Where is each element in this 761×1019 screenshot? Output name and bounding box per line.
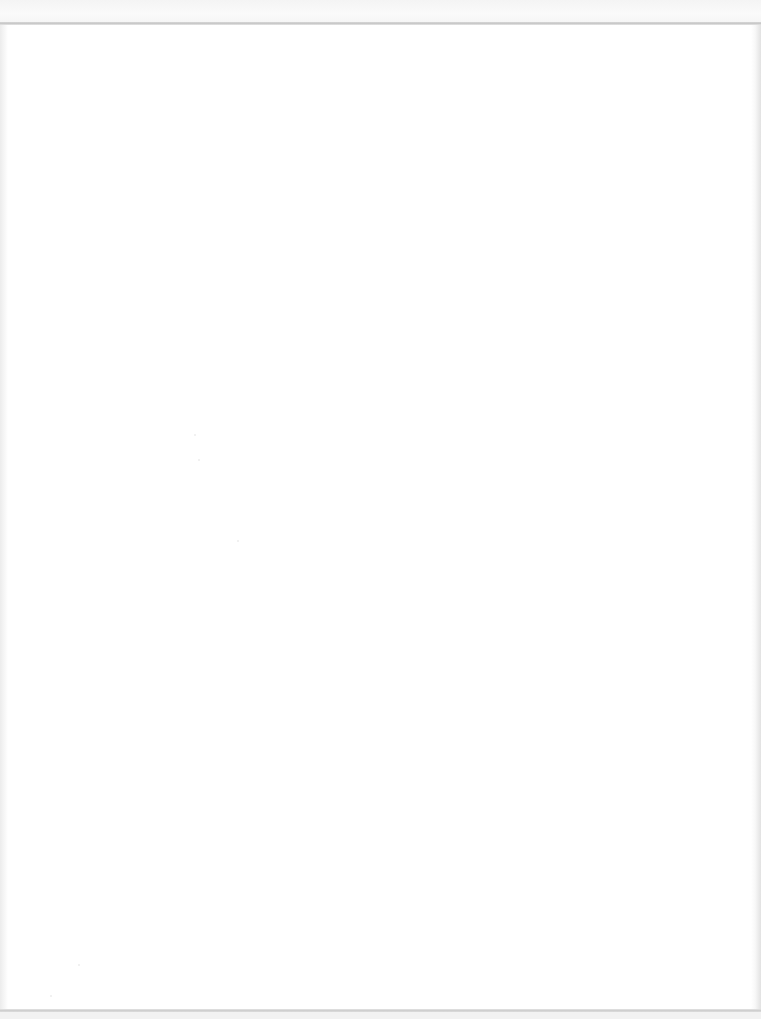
scanned-page (0, 0, 761, 1019)
page-right-edge-shadow (751, 25, 761, 1010)
blank-page-body (0, 25, 761, 1010)
scan-speck (194, 434, 196, 436)
scan-speck (198, 459, 200, 461)
scan-speck (78, 964, 80, 966)
scan-top-margin (0, 0, 761, 22)
scan-bottom-margin (0, 1012, 761, 1019)
scan-speck (50, 995, 52, 997)
scan-speck (237, 540, 239, 542)
page-left-edge-shadow (0, 25, 8, 1010)
